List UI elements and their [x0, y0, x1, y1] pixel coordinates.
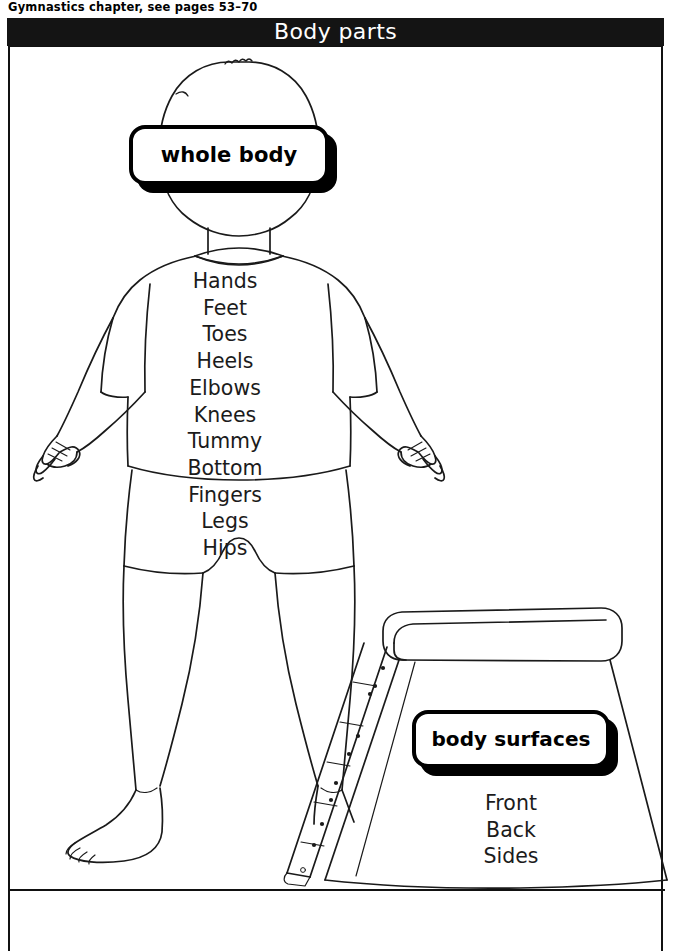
body-part-item: Hips [148, 535, 302, 562]
body-surface-item: Back [423, 817, 599, 844]
body-part-item: Knees [148, 402, 302, 429]
page-title-bar: Body parts [7, 18, 664, 46]
frame-bottom-rule [8, 889, 665, 891]
whole-body-callout: whole body [129, 125, 329, 185]
body-part-item: Heels [148, 348, 302, 375]
body-surfaces-callout-label: body surfaces [431, 727, 590, 751]
body-part-item: Feet [148, 295, 302, 322]
page-title: Body parts [7, 21, 664, 43]
body-part-item: Bottom [148, 455, 302, 482]
body-part-item: Legs [148, 508, 302, 535]
body-parts-word-list: Hands Feet Toes Heels Elbows Knees Tummy… [148, 268, 302, 562]
body-part-item: Tummy [148, 428, 302, 455]
body-surfaces-word-list: Front Back Sides [423, 790, 599, 870]
body-part-item: Hands [148, 268, 302, 295]
body-part-item: Elbows [148, 375, 302, 402]
whole-body-callout-label: whole body [161, 143, 298, 167]
body-surfaces-callout: body surfaces [412, 710, 610, 768]
body-surface-item: Front [423, 790, 599, 817]
body-part-item: Toes [148, 321, 302, 348]
frame-tail-left [8, 889, 10, 951]
frame-tail-right [661, 889, 663, 951]
body-part-item: Fingers [148, 482, 302, 509]
body-surface-item: Sides [423, 843, 599, 870]
chapter-caption: Gymnastics chapter, see pages 53–70 [8, 0, 258, 14]
